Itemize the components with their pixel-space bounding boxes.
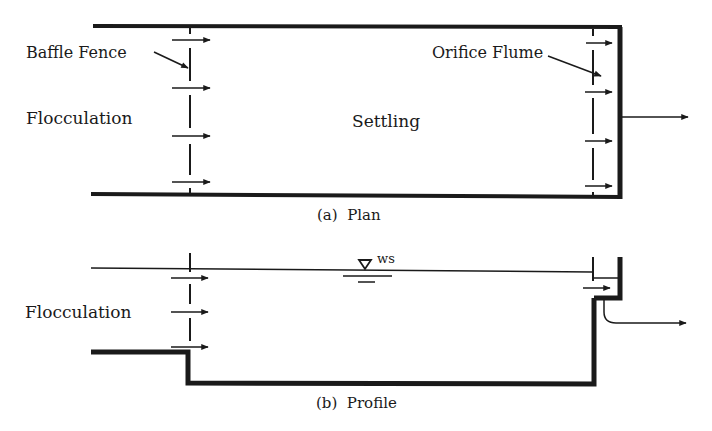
- caption-plan: (a) Plan: [317, 206, 381, 224]
- profile-outlet-flume: [583, 257, 686, 323]
- water-surface-line: [91, 268, 592, 272]
- label-water-surface: WS: [377, 251, 395, 266]
- label-baffle-fence: Baffle Fence: [26, 43, 127, 62]
- plan-bottom-wall: [91, 194, 622, 197]
- caption-profile: (b) Profile: [316, 394, 397, 412]
- profile-outlet-pipe: [604, 300, 686, 323]
- orifice-flume: [585, 29, 612, 196]
- profile-baffle-fence: [171, 253, 208, 347]
- baffle-fence: [172, 28, 210, 194]
- plan-top-wall: [93, 26, 622, 27]
- label-flocculation-plan: Flocculation: [26, 108, 133, 128]
- label-settling: Settling: [352, 111, 420, 131]
- profile-view: WS Flocculation (b) Profile: [25, 251, 686, 412]
- inverted-triangle-icon: [359, 260, 371, 269]
- sedimentation-basin-diagram: Baffle Fence Flocculation Settling Orifi…: [0, 0, 712, 431]
- label-flocculation-profile: Flocculation: [25, 302, 132, 322]
- water-surface-symbol: WS: [343, 251, 395, 282]
- plan-view: Baffle Fence Flocculation Settling Orifi…: [26, 26, 688, 224]
- profile-basin-floor: [91, 298, 594, 384]
- baffle-fence-leader-arrow: [154, 52, 188, 68]
- label-orifice-flume: Orifice Flume: [432, 43, 543, 62]
